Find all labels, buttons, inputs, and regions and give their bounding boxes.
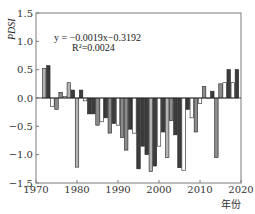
bar-1987 bbox=[104, 98, 107, 118]
bar-2001 bbox=[161, 98, 164, 132]
x-tick-label: 1980 bbox=[64, 184, 89, 195]
bar-2009 bbox=[194, 98, 197, 132]
x-tick-label: 2010 bbox=[187, 184, 212, 195]
x-tick-label: 1990 bbox=[105, 184, 130, 195]
bar-1994 bbox=[133, 98, 136, 133]
bar-2004 bbox=[174, 98, 177, 135]
y-tick-label: −1.0 bbox=[9, 149, 33, 160]
bar-2014 bbox=[215, 98, 218, 158]
bar-1982 bbox=[83, 98, 86, 101]
bar-2005 bbox=[178, 98, 181, 168]
bar-1996 bbox=[141, 98, 144, 146]
bar-2002 bbox=[165, 98, 168, 158]
bar-1981 bbox=[79, 90, 82, 98]
y-axis-label: PDSI bbox=[6, 18, 17, 41]
bar-1985 bbox=[96, 98, 99, 125]
y-tick-label: −0.5 bbox=[9, 121, 33, 132]
y-tick-label: 1.5 bbox=[17, 8, 33, 19]
y-tick-label: 0.0 bbox=[17, 93, 33, 104]
bar-1975 bbox=[55, 98, 58, 109]
bar-2017 bbox=[227, 70, 230, 98]
bar-2013 bbox=[211, 91, 214, 98]
bar-2018 bbox=[231, 83, 234, 98]
x-axis-label: 年份 bbox=[221, 198, 241, 210]
bar-2010 bbox=[198, 98, 201, 104]
x-tick-label: 1970 bbox=[23, 184, 48, 195]
bar-1986 bbox=[100, 98, 103, 122]
bar-2015 bbox=[219, 84, 222, 98]
bar-2011 bbox=[202, 87, 205, 98]
bar-2019 bbox=[235, 70, 238, 98]
bar-1984 bbox=[92, 98, 95, 114]
bar-2016 bbox=[223, 83, 226, 98]
bar-1990 bbox=[116, 98, 119, 125]
bar-1995 bbox=[137, 98, 140, 169]
bar-2007 bbox=[186, 98, 189, 109]
bar-1973 bbox=[47, 66, 50, 98]
bar-1980 bbox=[75, 98, 78, 167]
x-axis: 197019801990200020102020 bbox=[23, 180, 253, 195]
bar-1978 bbox=[67, 83, 70, 98]
bar-1989 bbox=[112, 98, 115, 124]
x-tick-label: 2000 bbox=[146, 184, 171, 195]
bar-1988 bbox=[108, 98, 111, 133]
bar-2000 bbox=[157, 98, 160, 146]
bar-1983 bbox=[88, 98, 91, 114]
y-tick-label: 0.5 bbox=[17, 64, 33, 75]
bar-1974 bbox=[51, 98, 54, 107]
bar-1997 bbox=[145, 98, 148, 155]
bar-2003 bbox=[170, 98, 173, 121]
bar-1992 bbox=[124, 98, 127, 150]
bar-1972 bbox=[42, 69, 45, 98]
y-tick-label: 1.0 bbox=[17, 36, 33, 47]
bar-1998 bbox=[149, 98, 152, 172]
bar-2006 bbox=[182, 98, 185, 171]
r-squared-label: R²=0.0024 bbox=[72, 42, 115, 53]
bar-2008 bbox=[190, 98, 193, 118]
bar-1993 bbox=[129, 98, 132, 129]
bar-1999 bbox=[153, 98, 156, 166]
bar-series bbox=[42, 66, 238, 172]
x-tick-label: 2020 bbox=[228, 184, 253, 195]
pdsi-bar-chart: 1.51.00.50.0−0.5−1.0−1.5 197019801990200… bbox=[0, 0, 255, 214]
bar-1979 bbox=[71, 90, 74, 98]
bar-1976 bbox=[59, 92, 62, 98]
bar-1991 bbox=[120, 98, 123, 138]
